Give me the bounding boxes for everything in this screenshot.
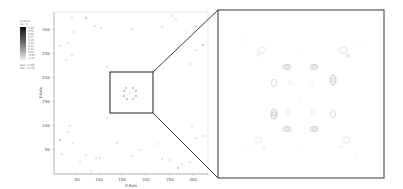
legend: Contour Var: d 0.90 0.79 0.68 0.57 0.46 …	[20, 20, 35, 70]
chart-canvas: 50 100 150 200 250 300 300 250 200 150 1…	[0, 0, 403, 189]
main-plot-area	[54, 12, 208, 174]
y-tick-label: 100	[42, 123, 50, 128]
x-tick-label: 50	[74, 177, 80, 182]
zoom-panel	[218, 10, 384, 178]
legend-color-bar	[20, 27, 26, 60]
y-tick-label: 50	[45, 147, 51, 152]
x-axis-label: X-Axis	[125, 183, 137, 188]
x-tick-label: 150	[118, 177, 126, 182]
y-axis-label: Y-Axis	[38, 87, 43, 100]
legend-level: -0.20	[28, 57, 35, 60]
legend-subtitle: Var: d	[20, 23, 28, 26]
y-tick-label: 300	[42, 27, 50, 32]
y-tick-label: 250	[42, 51, 50, 56]
x-tick-label: 300	[189, 177, 197, 182]
y-tick-label: 200	[42, 75, 50, 80]
legend-min: Min: -0.210	[20, 67, 35, 70]
x-tick-label: 100	[95, 177, 103, 182]
x-tick-label: 200	[142, 177, 150, 182]
x-tick-label: 250	[166, 177, 174, 182]
y-tick-label: 150	[42, 99, 50, 104]
